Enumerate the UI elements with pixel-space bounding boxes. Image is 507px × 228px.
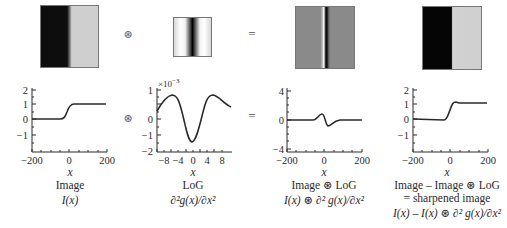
caption-title: Image – Image ⊛ LoG bbox=[384, 179, 507, 192]
ytick: 0 bbox=[23, 114, 28, 125]
ytick: 2 bbox=[404, 85, 409, 96]
svg-text:4: 4 bbox=[204, 155, 210, 166]
ytick: −1 bbox=[142, 130, 153, 141]
caption-formula: ∂²g(x)/∂x² bbox=[170, 194, 215, 206]
svg-text:8: 8 bbox=[219, 155, 224, 166]
svg-text:200: 200 bbox=[99, 155, 115, 166]
convolve-operator-plots: ⊛ bbox=[121, 112, 135, 125]
caption-title: Image ⊛ LoG bbox=[264, 179, 384, 192]
svg-text:200: 200 bbox=[480, 155, 496, 166]
sharpened-plot bbox=[413, 88, 488, 152]
ytick: −2 bbox=[142, 146, 153, 157]
log-plot bbox=[157, 88, 232, 152]
ytick: 1 bbox=[23, 99, 28, 110]
caption-formula: I(x) ⊛ ∂² g(x)/∂x² bbox=[284, 194, 364, 206]
svg-text:−8: −8 bbox=[158, 155, 169, 166]
ytick: 0 bbox=[279, 115, 284, 126]
sharpened-caption: x Image – Image ⊛ LoG = sharpened image … bbox=[384, 166, 507, 220]
svg-text:−200: −200 bbox=[21, 155, 43, 166]
equals-operator-plots: = bbox=[245, 108, 259, 124]
caption-subtitle: = sharpened image bbox=[384, 192, 507, 205]
log-caption: x LoG ∂²g(x)/∂x² bbox=[150, 166, 236, 207]
caption-title: Image bbox=[30, 179, 110, 192]
ytick: 1 bbox=[404, 99, 409, 110]
ytick: 1 bbox=[148, 85, 153, 96]
svg-text:0: 0 bbox=[447, 155, 452, 166]
ytick: 4 bbox=[279, 86, 285, 97]
ytick: −1 bbox=[398, 130, 409, 141]
caption-formula: I(x) – I(x) ⊛ ∂² g(x)/∂x² bbox=[393, 207, 501, 219]
ytick: −1 bbox=[17, 130, 28, 141]
ytick: 0 bbox=[404, 114, 409, 125]
svg-text:0: 0 bbox=[66, 155, 71, 166]
x-axis-label: x bbox=[321, 166, 326, 178]
y-multiplier: ×10−3 bbox=[158, 77, 180, 89]
svg-text:200: 200 bbox=[354, 155, 370, 166]
ytick: 2 bbox=[23, 85, 28, 96]
x-axis-label: x bbox=[444, 166, 449, 178]
svg-text:−200: −200 bbox=[402, 155, 424, 166]
svg-text:0: 0 bbox=[190, 155, 195, 166]
svg-text:−200: −200 bbox=[276, 155, 298, 166]
caption-formula: I(x) bbox=[62, 194, 79, 206]
filtered-caption: x Image ⊛ LoG I(x) ⊛ ∂² g(x)/∂x² bbox=[264, 166, 384, 207]
image-caption: x Image I(x) bbox=[30, 166, 110, 207]
ytick: 0 bbox=[148, 114, 153, 125]
svg-text:−4: −4 bbox=[172, 155, 184, 166]
x-axis-label: x bbox=[190, 166, 195, 178]
svg-text:0: 0 bbox=[321, 155, 326, 166]
filtered-plot bbox=[287, 88, 362, 152]
ytick: −4 bbox=[273, 144, 285, 155]
caption-title: LoG bbox=[150, 179, 236, 192]
x-axis-label: x bbox=[67, 166, 72, 178]
image-plot bbox=[32, 88, 107, 152]
